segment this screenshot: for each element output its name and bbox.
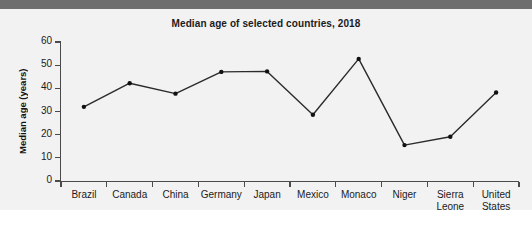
x-tick-mark (198, 182, 199, 187)
x-tick-label: Monaco (336, 189, 382, 201)
y-tick-label: 60 (26, 35, 52, 46)
y-tick-mark (55, 88, 60, 89)
y-tick-label: 0 (26, 174, 52, 185)
data-point-marker (265, 69, 269, 73)
y-tick-mark (55, 157, 60, 158)
x-tick-label: Niger (382, 189, 428, 201)
x-tick-label: China (153, 189, 199, 201)
x-tick-label: Germany (198, 189, 244, 201)
y-tick-label: 10 (26, 151, 52, 162)
top-banner-bar (0, 0, 532, 9)
x-tick-mark (335, 182, 336, 187)
data-point-marker (173, 91, 177, 95)
data-point-marker (448, 135, 452, 139)
data-point-marker (82, 105, 86, 109)
page-bottom-strip (0, 210, 532, 226)
y-tick-mark (55, 65, 60, 66)
data-point-marker (219, 70, 223, 74)
chart-figure: Median age of selected countries, 2018 M… (0, 9, 532, 210)
x-tick-mark (381, 182, 382, 187)
x-tick-mark (427, 182, 428, 187)
x-tick-mark (152, 182, 153, 187)
x-tick-label: Mexico (290, 189, 336, 201)
x-tick-label: Japan (244, 189, 290, 201)
y-tick-mark (55, 111, 60, 112)
y-tick-label: 50 (26, 58, 52, 69)
chart-title: Median age of selected countries, 2018 (0, 18, 532, 29)
y-tick-mark (55, 134, 60, 135)
y-tick-mark (55, 180, 60, 181)
x-tick-mark (289, 182, 290, 187)
y-tick-label: 40 (26, 81, 52, 92)
data-point-marker (402, 143, 406, 147)
data-point-marker (357, 57, 361, 61)
y-tick-label: 30 (26, 105, 52, 116)
x-tick-mark (244, 182, 245, 187)
x-tick-mark (518, 182, 519, 187)
data-point-marker (311, 113, 315, 117)
data-point-marker (128, 81, 132, 85)
y-tick-mark (55, 41, 60, 42)
data-point-marker (494, 90, 498, 94)
x-tick-label: Canada (107, 189, 153, 201)
x-tick-mark (106, 182, 107, 187)
y-tick-label: 20 (26, 128, 52, 139)
chart-page: Median age of selected countries, 2018 M… (0, 0, 532, 226)
x-tick-label: Brazil (61, 189, 107, 201)
y-axis-line (60, 41, 61, 182)
x-tick-mark (60, 182, 61, 187)
x-tick-mark (473, 182, 474, 187)
